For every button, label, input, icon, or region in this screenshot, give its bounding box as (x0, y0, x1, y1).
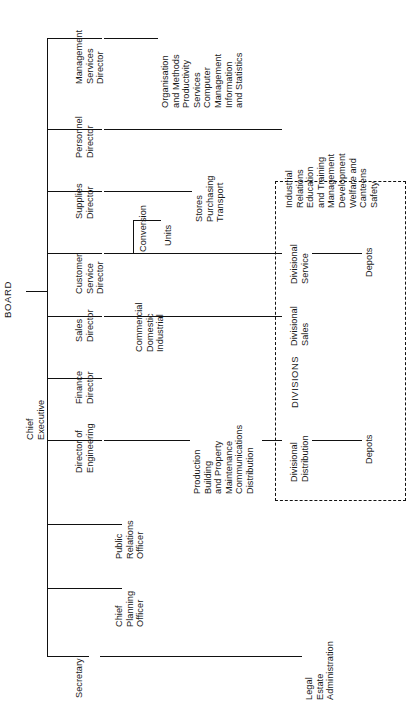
chief-executive-label: Chief Executive (25, 365, 46, 440)
personnel-director-label: Personnel Director (74, 104, 95, 158)
management-services-functions-label: Organisation and Methods Productivity Se… (160, 4, 245, 108)
supplies-director-label: Supplies Director (74, 167, 95, 219)
management-services-director-label: Management Services Director (74, 6, 106, 84)
conversion-label: Conversion (138, 198, 149, 252)
divisions-box (275, 181, 406, 501)
units-label: Units (163, 216, 174, 246)
public-relations-officer-label: Public Relations Officer (114, 497, 146, 559)
child-rule-secretary (100, 656, 302, 657)
customer-service-director-label: Customer Service Director (74, 222, 106, 294)
engineering-functions-label: Production Building and Property Mainten… (192, 412, 256, 494)
org-chart: BOARD Chief Executive Management Service… (0, 0, 409, 705)
director-of-engineering-label: Director of Engineering (74, 415, 95, 473)
branch-rule-public-relations-officer (47, 524, 122, 525)
child-rule-engineering (104, 440, 190, 441)
child-rule-customer-service (104, 253, 282, 254)
divisions-box-label: DIVISIONS (290, 346, 301, 408)
sales-functions-label: Commercial Domestic Industrial (134, 290, 166, 352)
finance-director-label: Finance Director (74, 358, 95, 404)
secretary-functions-label: Legal Estate Administration (304, 628, 336, 700)
secretary-label: Secretary (74, 644, 85, 698)
board-connector (26, 291, 48, 292)
board-label: BOARD (3, 258, 14, 318)
branch-rule-chief-planning-officer (47, 588, 122, 589)
child-rule-management-services (104, 38, 158, 39)
child-rule-sales (104, 316, 282, 317)
conversion-units-riser (133, 220, 134, 254)
chief-planning-officer-label: Chief Planning Officer (114, 569, 146, 627)
child-rule-supplies (104, 191, 192, 192)
chief-executive-spine (47, 291, 48, 656)
sales-director-label: Sales Director (74, 296, 95, 342)
child-rule-personnel (104, 129, 282, 130)
supplies-functions-label: Stores Purchasing Transport (194, 166, 226, 222)
